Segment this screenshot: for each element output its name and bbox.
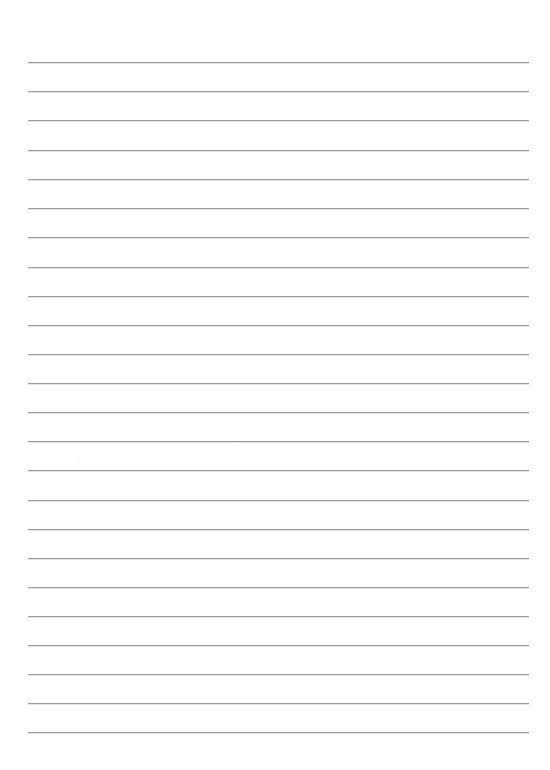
writing-row[interactable] [0,383,550,412]
writing-row[interactable] [0,616,550,645]
rule-line [28,296,529,297]
writing-row[interactable] [0,208,550,237]
faint-scan-artifact: · [233,440,236,448]
rule-line [28,645,529,646]
writing-row[interactable] [0,33,550,62]
faint-scan-artifact: · [120,753,123,761]
rule-line [28,120,529,121]
rule-line [28,441,529,442]
writing-row[interactable] [0,325,550,354]
rule-line [28,150,529,151]
writing-row[interactable] [0,412,550,441]
rule-line [28,529,529,530]
writing-row[interactable] [0,587,550,616]
rule-line [28,703,529,704]
writing-row[interactable] [0,674,550,703]
rule-line [28,208,529,209]
writing-row[interactable] [0,558,550,587]
rule-line [28,616,529,617]
rule-line [28,558,529,559]
faint-scan-artifact: · [293,309,296,317]
writing-row[interactable] [0,91,550,120]
writing-row[interactable] [0,150,550,179]
writing-row[interactable] [0,238,550,267]
writing-row[interactable] [0,500,550,529]
rule-line [28,325,529,326]
writing-row[interactable] [0,267,550,296]
document-page: ········ [0,0,550,770]
rule-line [28,412,529,413]
faint-scan-artifact: · [297,753,300,761]
rule-line [28,237,529,238]
faint-scan-artifact: · [385,6,388,14]
writing-row[interactable] [0,121,550,150]
rule-line [28,267,529,268]
writing-row[interactable] [0,296,550,325]
writing-row[interactable] [0,354,550,383]
writing-row[interactable] [0,179,550,208]
writing-row[interactable] [0,441,550,470]
rule-line [28,179,529,180]
rule-line [28,732,529,733]
faint-scan-artifact: ·· [76,456,81,464]
rule-line [28,500,529,501]
writing-row[interactable] [0,62,550,91]
writing-row[interactable] [0,471,550,500]
writing-row[interactable] [0,703,550,732]
faint-scan-artifact: · [220,398,223,406]
rule-line [28,91,529,92]
rule-line [28,470,529,471]
rule-line [28,62,529,63]
rule-line [28,383,529,384]
writing-row[interactable] [0,645,550,674]
rule-line [28,587,529,588]
writing-row[interactable] [0,529,550,558]
ruled-writing-area[interactable]: ········ [0,0,550,770]
rule-line [28,674,529,675]
rule-line [28,354,529,355]
